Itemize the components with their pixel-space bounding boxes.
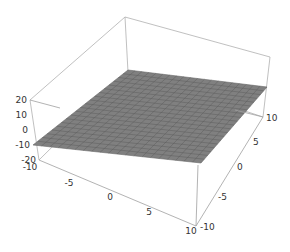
z-tick: -10 [15,140,30,150]
x-tick: -5 [65,178,74,188]
z-tick: 0 [22,125,28,135]
z-tick: 10 [16,110,28,120]
x-tick: 5 [146,207,152,217]
surface-plot: 20 10 0 -10 -20 -10 -5 0 5 10 -10 -5 0 5… [0,0,290,252]
x-tick: 10 [185,226,197,236]
z-tick: 20 [16,95,28,105]
x-tick: 0 [107,192,113,202]
z-axis-ticks: 20 10 0 -10 -20 [15,95,36,165]
surface-plane [33,70,267,163]
y-tick: 0 [237,162,243,172]
x-axis-ticks: -10 -5 0 5 10 [23,162,197,236]
x-tick: -10 [23,162,38,172]
y-tick: 10 [266,113,278,123]
y-tick: 5 [253,137,259,147]
y-tick: -5 [218,192,227,202]
y-tick: -10 [200,222,215,232]
